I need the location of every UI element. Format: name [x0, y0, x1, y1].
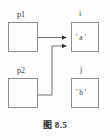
node-label-j: j: [80, 66, 82, 74]
node-label-p2: p2: [17, 67, 25, 75]
node-value-j: ' b ': [76, 89, 86, 97]
node-label-p1: p1: [17, 11, 25, 19]
node-box-p2: [8, 78, 38, 108]
figure-caption: 图 8.5: [0, 118, 110, 131]
arrow-p2-to-i: [38, 46, 66, 95]
node-box-p1: [8, 22, 38, 52]
node-value-i: ' a ': [76, 34, 86, 42]
node-label-i: i: [79, 10, 81, 18]
figure-container: p1 i p2 j ' a ' ' b ' 图 8.5: [0, 0, 110, 140]
